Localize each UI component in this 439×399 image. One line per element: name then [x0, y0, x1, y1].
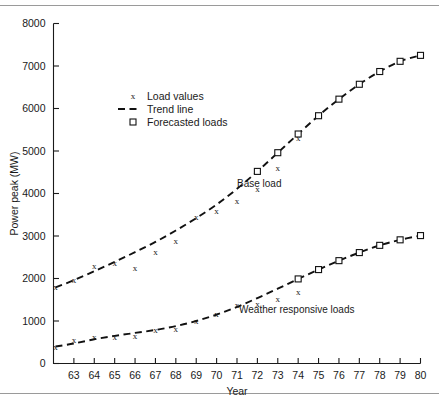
legend-label: Trend line: [147, 103, 193, 115]
forecasted-load-marker: [418, 233, 424, 239]
y-axis-tick-label: 3000: [22, 230, 46, 242]
load-value-marker: x: [112, 258, 117, 268]
y-axis-tick-label: 6000: [22, 102, 46, 114]
forecasted-load-marker: [295, 131, 301, 137]
load-value-marker: x: [133, 263, 138, 273]
forecasted-load-marker: [377, 242, 383, 248]
x-axis-tick-label: 75: [313, 369, 325, 381]
load-value-marker: x: [194, 316, 199, 326]
x-axis-title: Year: [226, 385, 248, 397]
x-axis-tick-label: 71: [231, 369, 243, 381]
chart-figure: 0100020003000400050006000700080006364656…: [0, 0, 439, 399]
x-axis-tick-label: 80: [415, 369, 427, 381]
load-value-marker: x: [153, 325, 158, 335]
forecasted-load-marker: [397, 58, 403, 64]
forecasted-load-marker: [254, 168, 260, 174]
load-value-marker: x: [276, 294, 281, 304]
y-axis-title: Power peak (MW): [8, 151, 20, 235]
legend-label: Forecasted loads: [147, 116, 228, 128]
load-value-marker: x: [296, 287, 301, 297]
forecasted-load-marker: [316, 267, 322, 273]
y-axis-tick-label: 7000: [22, 60, 46, 72]
load-value-marker: x: [153, 247, 158, 257]
load-value-marker: x: [112, 332, 117, 342]
x-axis-tick-label: 69: [190, 369, 202, 381]
forecasted-load-marker: [356, 250, 362, 256]
legend-marker-load-values: x: [131, 91, 136, 101]
power-peak-line-chart: 0100020003000400050006000700080006364656…: [0, 0, 439, 399]
forecasted-load-marker: [336, 258, 342, 264]
chart-axes: [54, 24, 421, 364]
load-value-marker: x: [92, 261, 97, 271]
x-axis-tick-label: 72: [252, 369, 264, 381]
load-value-marker: x: [214, 309, 219, 319]
load-value-marker: x: [72, 275, 77, 285]
forecasted-load-marker: [275, 150, 281, 156]
load-value-marker: x: [53, 282, 58, 292]
x-axis-tick-label: 65: [109, 369, 121, 381]
x-axis-tick-label: 73: [272, 369, 284, 381]
load-value-marker: x: [214, 206, 219, 216]
x-axis-tick-label: 79: [394, 369, 406, 381]
x-axis-tick-label: 74: [292, 369, 304, 381]
y-axis-tick-label: 1000: [22, 315, 46, 327]
x-axis-tick-label: 68: [170, 369, 182, 381]
load-value-marker: x: [235, 196, 240, 206]
load-value-marker: x: [174, 324, 179, 334]
y-axis-tick-label: 2000: [22, 272, 46, 284]
forecasted-load-marker: [356, 81, 362, 87]
x-axis-tick-label: 66: [129, 369, 141, 381]
x-axis-tick-label: 67: [150, 369, 162, 381]
x-axis-tick-label: 78: [374, 369, 386, 381]
forecasted-load-marker: [377, 69, 383, 75]
legend-label: Load values: [147, 90, 204, 102]
y-axis-tick-label: 0: [40, 357, 46, 369]
x-axis-tick-label: 77: [353, 369, 365, 381]
forecasted-load-marker: [336, 96, 342, 102]
load-value-marker: x: [194, 212, 199, 222]
annotation-base-load: Base load: [237, 178, 281, 189]
legend-marker-forecasted-loads: [130, 119, 136, 125]
load-value-marker: x: [53, 342, 58, 352]
x-axis-tick-label: 70: [211, 369, 223, 381]
forecasted-load-marker: [316, 113, 322, 119]
trend-line-weather-responsive-loads: [56, 236, 421, 347]
load-value-marker: x: [133, 331, 138, 341]
x-axis-tick-label: 63: [68, 369, 80, 381]
trend-line-base-load: [56, 55, 421, 287]
x-axis-tick-label: 76: [333, 369, 345, 381]
y-axis-tick-label: 5000: [22, 145, 46, 157]
load-value-marker: x: [174, 236, 179, 246]
y-axis-tick-label: 4000: [22, 187, 46, 199]
load-value-marker: x: [92, 332, 97, 342]
x-axis-tick-label: 64: [88, 369, 100, 381]
forecasted-load-marker: [418, 52, 424, 58]
load-value-marker: x: [276, 163, 281, 173]
forecasted-load-marker: [295, 276, 301, 282]
annotation-weather-responsive-loads: Weather responsive loads: [239, 304, 354, 315]
forecasted-load-marker: [397, 237, 403, 243]
load-value-marker: x: [72, 335, 77, 345]
y-axis-tick-label: 8000: [22, 17, 46, 29]
